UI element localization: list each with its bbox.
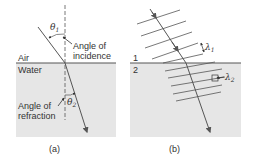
panel-a: θ1 θ2 Angle of incidence Air Water Angle… [16,5,116,154]
lambda1-marker [201,43,204,52]
panel-b: λ1 λ2 1 2 (b) [130,9,241,154]
caption-a: (a) [49,144,60,154]
ray-arrow-2 [172,42,178,51]
incidence-pointer [63,37,72,44]
medium1-label: 1 [133,53,138,63]
ray-arrow-1 [150,9,156,18]
air-label: Air [18,53,29,63]
refraction-label-line2: refraction [18,111,56,121]
angle-arc-incidence [49,34,65,38]
incidence-label-line2: incidence [73,51,111,61]
wavefronts-medium1 [137,10,203,63]
refraction-diagram: θ1 θ2 Angle of incidence Air Water Angle… [0,0,253,164]
caption-b: (b) [169,144,180,154]
medium2-label: 2 [133,65,138,75]
refraction-label-line1: Angle of [18,101,52,111]
water-label: Water [18,65,42,75]
incident-ray [38,27,65,63]
incidence-label-line1: Angle of [73,41,107,51]
lambda1-label: λ1 [204,42,215,53]
theta1-label: θ1 [50,22,59,33]
